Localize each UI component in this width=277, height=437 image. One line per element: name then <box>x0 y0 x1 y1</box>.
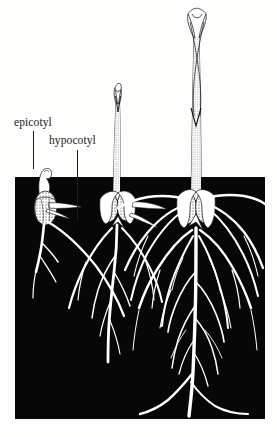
soil-block <box>15 177 265 419</box>
label-epicotyl: epicotyl <box>14 116 52 128</box>
germination-figure: epicotyl hypocotyl <box>0 0 277 437</box>
leader-line-hypocotyl <box>77 150 78 221</box>
leader-line-epicotyl <box>33 131 34 169</box>
label-hypocotyl: hypocotyl <box>49 134 96 146</box>
